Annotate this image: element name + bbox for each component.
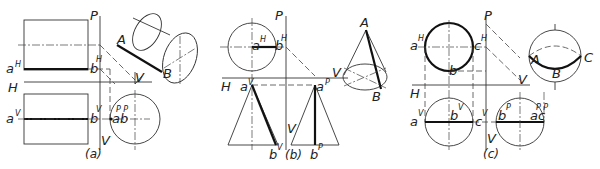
label-c-h-sup: H <box>481 34 487 43</box>
caption-a: (a) <box>85 147 102 161</box>
projector-miter <box>286 47 315 76</box>
label-plane-p: P <box>90 8 98 23</box>
label-a-p: a <box>316 79 324 94</box>
label-a-v-sup: V <box>15 109 21 118</box>
panel-a: P H V V a H b H a V b V ab P P A B (a) <box>6 8 204 161</box>
label-pictorial-a: A <box>359 15 369 30</box>
label-pictorial-a: A <box>530 52 540 67</box>
label-a-v: a <box>240 79 248 94</box>
panel-c: P H V V a H b c H a V b V c V b P ac P P… <box>410 8 594 161</box>
projection-figure: P H V V a H b H a V b V ab P P A B (a) <box>0 0 600 169</box>
caption-b: (b) <box>285 148 302 162</box>
label-plane-p: P <box>484 8 492 23</box>
line-ab-pictorial <box>117 45 162 72</box>
line-ab-front-view <box>252 85 276 145</box>
label-pictorial-a: A <box>116 32 126 47</box>
label-plane-v-pictorial: V <box>135 70 145 85</box>
label-ab-p-sup: P P <box>116 105 128 114</box>
label-a-v: a <box>6 111 14 126</box>
label-b-h: b <box>449 63 457 78</box>
label-a-p-sup: P <box>325 78 330 87</box>
label-plane-v-pictorial: V <box>518 72 528 87</box>
cylinder-back-face <box>127 9 168 56</box>
label-ac-p-sup: P P <box>536 103 548 112</box>
label-a-h: a <box>410 38 418 53</box>
label-a-h: a <box>6 61 14 76</box>
label-a-h: a <box>252 38 260 53</box>
label-plane-v: V <box>487 131 497 146</box>
caption-c: (c) <box>483 147 499 161</box>
label-plane-h: H <box>221 79 231 94</box>
label-b-h-sup: H <box>96 55 102 64</box>
label-plane-v: V <box>287 121 297 136</box>
projector-miter <box>486 47 520 80</box>
cylinder-pictorial <box>117 9 204 88</box>
projector-miter <box>486 24 520 58</box>
label-a-v-sup: V <box>248 78 254 87</box>
label-pictorial-b: B <box>372 89 381 104</box>
label-pictorial-b: B <box>163 66 172 81</box>
label-b-v-sup: V <box>96 105 102 114</box>
cone-outline <box>344 30 366 75</box>
label-b-p-sup: P <box>318 143 323 152</box>
cone-pictorial <box>343 30 387 90</box>
panel-b: P H V V a H b H a V b V a P b P A B (b) <box>220 8 387 162</box>
label-plane-v-pictorial: V <box>332 65 342 80</box>
label-a-v: a <box>410 114 418 129</box>
line-ab-pictorial <box>366 30 381 89</box>
label-b-p-sup: P <box>506 103 511 112</box>
label-a-h-sup: H <box>260 35 266 44</box>
label-plane-h: H <box>8 80 18 95</box>
label-a-v-sup: V <box>418 109 424 118</box>
label-a-h-sup: H <box>418 34 424 43</box>
label-plane-v: V <box>101 133 111 148</box>
label-plane-p: P <box>275 8 283 23</box>
label-plane-h: H <box>410 86 420 101</box>
label-b-v-sup: V <box>277 143 283 152</box>
cone-front-view <box>228 85 278 145</box>
label-pictorial-c: C <box>584 50 594 65</box>
label-pictorial-b: B <box>552 66 561 81</box>
projector-miter <box>100 45 135 80</box>
cylinder-outline <box>133 18 170 35</box>
label-b-h-sup: H <box>281 34 287 43</box>
label-a-h-sup: H <box>15 60 21 69</box>
label-c-v-sup: V <box>482 109 488 118</box>
label-b-v-sup: V <box>458 103 464 112</box>
